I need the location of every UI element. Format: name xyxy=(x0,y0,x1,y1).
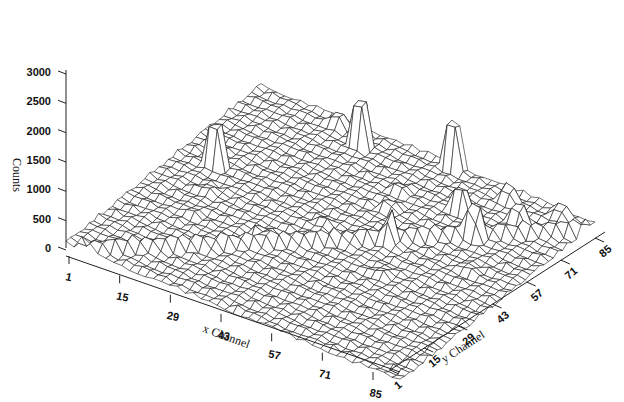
z-tick-label: 3000 xyxy=(27,66,51,78)
x-tick-label: 85 xyxy=(369,386,383,400)
y-tick-label: 43 xyxy=(494,308,511,325)
x-tick-label: 1 xyxy=(65,270,73,283)
x-tick-label: 57 xyxy=(267,348,281,362)
wireframe-surface xyxy=(66,84,595,379)
z-tick-label: 1000 xyxy=(27,183,51,195)
z-tick-label: 2000 xyxy=(27,125,51,137)
z-tick-label: 500 xyxy=(33,213,51,225)
x-axis-title: x Channel xyxy=(201,321,252,351)
x-tick-label: 29 xyxy=(166,309,180,323)
y-tick-label: 1 xyxy=(392,378,404,391)
surface-plot: 0500100015002000250030001152943577185115… xyxy=(0,0,624,402)
y-tick-label: 85 xyxy=(597,242,614,259)
y-tick-label: 57 xyxy=(528,286,545,303)
z-tick-label: 0 xyxy=(45,242,51,254)
z-axis-title: Counts xyxy=(10,158,24,192)
x-tick-label: 15 xyxy=(115,290,129,304)
z-tick-label: 2500 xyxy=(27,95,51,107)
x-tick-label: 71 xyxy=(318,367,332,381)
y-tick-label: 71 xyxy=(562,264,579,281)
z-tick-label: 1500 xyxy=(27,154,51,166)
